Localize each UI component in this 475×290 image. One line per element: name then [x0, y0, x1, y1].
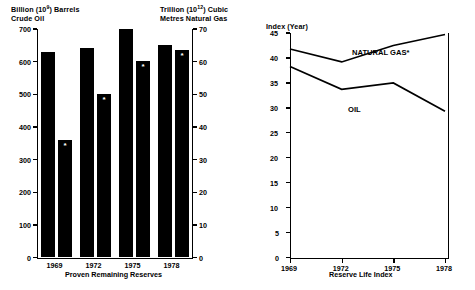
bar-x-tick-label-1969: 1969 — [47, 261, 63, 270]
line-y-tick-label: 45 — [270, 29, 278, 38]
bar-crude-oil-1969 — [41, 52, 55, 257]
bar-right-tick-mark — [193, 94, 197, 95]
bar-natural-gas-1975: * — [136, 61, 150, 257]
line-plot-area: NATURAL GAS*OIL — [290, 33, 449, 257]
bar-left-tick-label: 0 — [27, 254, 31, 263]
line-x-tick-mark — [445, 259, 446, 263]
bar-left-tick-label: 600 — [19, 58, 31, 67]
line-y-tick-label: 0 — [275, 254, 279, 263]
bar-right-axis-title-line1: Trillion (1012) Cubic — [160, 5, 228, 14]
line-x-tick-label-1978: 1978 — [436, 264, 452, 273]
line-y-tick-label: 5 — [275, 229, 279, 238]
bar-x-axis-line — [37, 258, 193, 259]
bar-left-tick-label: 200 — [19, 188, 31, 197]
bar-right-tick-label: 30 — [199, 156, 207, 165]
asterisk-marker-icon: * — [180, 52, 183, 60]
bar-chart-panel: Billion (109) Barrels Crude Oil Trillion… — [0, 0, 237, 290]
bar-crude-oil-1975 — [119, 29, 133, 258]
bar-natural-gas-1972: * — [97, 94, 111, 257]
bar-left-tick-label: 500 — [19, 90, 31, 99]
line-y-tick-label: 10 — [270, 204, 278, 213]
bar-right-axis-title: Trillion (1012) Cubic Metres Natural Gas — [160, 5, 228, 23]
bar-right-tick-mark — [193, 257, 197, 258]
bar-right-tick-label: 20 — [199, 188, 207, 197]
asterisk-marker-icon: * — [141, 63, 144, 71]
bar-left-axis-title-line1: Billion (109) Barrels — [11, 5, 80, 14]
line-y-tick-label: 30 — [270, 104, 278, 113]
bar-x-tick-label-1975: 1975 — [125, 261, 141, 270]
line-y-tick-label: 15 — [270, 179, 278, 188]
bar-right-tick-mark — [193, 28, 197, 29]
line-y-tick-label: 40 — [270, 54, 278, 63]
bar-x-tick-label-1978: 1978 — [164, 261, 180, 270]
line-x-tick-mark — [290, 259, 291, 263]
bar-crude-oil-1978 — [158, 45, 172, 257]
line-series-svg — [290, 33, 449, 257]
bar-right-tick-label: 50 — [199, 90, 207, 99]
bar-right-tick-mark — [193, 159, 197, 160]
line-chart-caption: Reserve Life Index — [329, 270, 393, 279]
line-series-annotation-natural-gas: NATURAL GAS* — [352, 48, 410, 57]
line-series-annotation-oil: OIL — [348, 105, 361, 114]
bar-right-tick-mark — [193, 224, 197, 225]
bar-right-tick-label: 40 — [199, 123, 207, 132]
bar-natural-gas-1969: * — [58, 140, 72, 258]
bar-crude-oil-1972 — [80, 48, 94, 257]
line-x-axis-line — [290, 258, 449, 259]
bar-left-axis-title-line2: Crude Oil — [11, 14, 80, 23]
line-y-tick-label: 35 — [270, 79, 278, 88]
bar-plot-area: **** — [37, 29, 193, 257]
bar-natural-gas-1978: * — [175, 50, 189, 257]
bar-left-axis-title: Billion (109) Barrels Crude Oil — [11, 5, 80, 23]
bar-left-tick-label: 100 — [19, 221, 31, 230]
bar-left-tick-label: 300 — [19, 156, 31, 165]
bar-right-axis-title-line2: Metres Natural Gas — [160, 14, 228, 23]
bar-right-tick-label: 70 — [199, 25, 207, 34]
line-x-tick-mark — [393, 259, 394, 263]
line-y-tick-label: 25 — [270, 129, 278, 138]
bar-left-tick-mark — [33, 257, 37, 258]
line-series-oil — [290, 66, 445, 111]
line-x-tick-mark — [342, 259, 343, 263]
bar-right-tick-label: 0 — [199, 254, 203, 263]
bar-right-tick-label: 60 — [199, 58, 207, 67]
bar-right-tick-mark — [193, 192, 197, 193]
asterisk-marker-icon: * — [63, 142, 66, 150]
bar-right-tick-mark — [193, 61, 197, 62]
bar-x-tick-label-1972: 1972 — [86, 261, 102, 270]
bar-right-tick-mark — [193, 126, 197, 127]
bar-left-tick-label: 400 — [19, 123, 31, 132]
bar-chart-caption: Proven Remaining Reserves — [65, 270, 162, 279]
line-y-tick-label: 20 — [270, 154, 278, 163]
bar-right-tick-label: 10 — [199, 221, 207, 230]
line-chart-panel: Index (Year) 454035302520151050 NATURAL … — [237, 0, 475, 290]
asterisk-marker-icon: * — [102, 96, 105, 104]
line-x-tick-label-1969: 1969 — [281, 264, 297, 273]
bar-left-tick-label: 700 — [19, 25, 31, 34]
